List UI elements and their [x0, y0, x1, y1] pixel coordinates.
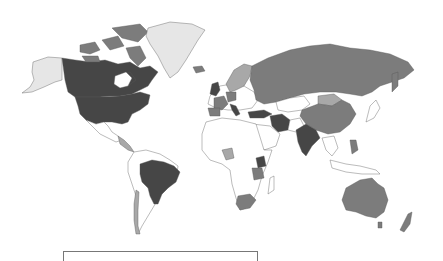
region-germany[interactable] — [226, 92, 236, 102]
region-alaska[interactable] — [22, 57, 62, 93]
region-tasmania[interactable] — [378, 222, 382, 228]
region-turkey[interactable] — [248, 110, 272, 118]
region-kamchatka[interactable] — [392, 72, 398, 92]
region-southeast-asia[interactable] — [322, 136, 338, 156]
region-spain[interactable] — [208, 108, 220, 116]
region-iceland[interactable] — [193, 66, 205, 73]
region-central-america[interactable] — [118, 136, 134, 152]
region-kenya[interactable] — [256, 156, 266, 168]
region-scandinavia[interactable] — [226, 64, 252, 92]
region-united-states[interactable] — [75, 92, 150, 124]
region-mexico[interactable] — [86, 120, 122, 142]
region-tanzania[interactable] — [252, 168, 264, 180]
region-japan[interactable] — [366, 100, 380, 122]
region-philippines[interactable] — [350, 140, 358, 154]
region-madagascar[interactable] — [268, 176, 274, 194]
region-indonesia[interactable] — [330, 160, 380, 174]
region-canadian-arctic[interactable] — [80, 24, 148, 66]
region-australia[interactable] — [342, 178, 388, 218]
legend-box — [63, 251, 258, 261]
region-canada[interactable] — [62, 58, 158, 97]
region-new-zealand[interactable] — [400, 212, 412, 232]
